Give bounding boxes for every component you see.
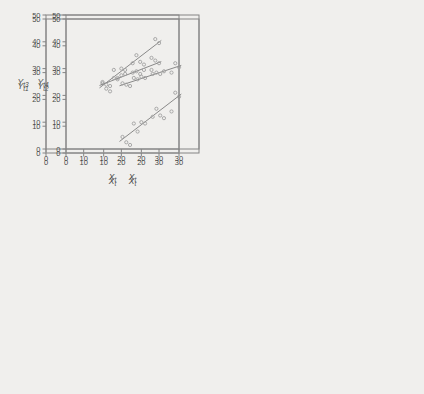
panel-yt4: 010203040500102030Yt4Xt [0,0,212,197]
y-tick-label: 20 [52,91,60,100]
scatter-point [170,71,173,74]
fit-line [120,65,182,85]
plot-yt4: 010203040500102030Yt4Xt [0,0,212,197]
scatter-plot-grid: 010203040500102030Yt1Xt 0102030405001020… [0,0,424,394]
y-tick-label: 40 [52,37,60,46]
y-tick-label: 50 [52,11,60,20]
y-axis-label-sub: t4 [43,81,49,88]
y-tick-label: 10 [52,118,60,127]
y-axis-label: Yt4 [37,77,48,88]
scatter-point [159,72,162,75]
x-axis-label-sub: t [134,176,137,183]
y-tick-label: 30 [52,64,60,73]
x-axis-label: Xt [128,172,138,183]
y-tick-label: 0 [56,145,60,154]
x-tick-label: 10 [100,154,108,163]
scatter-point [128,84,131,87]
scatter-point [140,75,143,78]
scatter-point [174,62,177,65]
plot-frame [66,15,199,149]
x-tick-label: 0 [64,154,68,163]
x-tick-label: 30 [175,154,183,163]
x-tick-label: 20 [137,154,145,163]
scatter-point [132,76,135,79]
